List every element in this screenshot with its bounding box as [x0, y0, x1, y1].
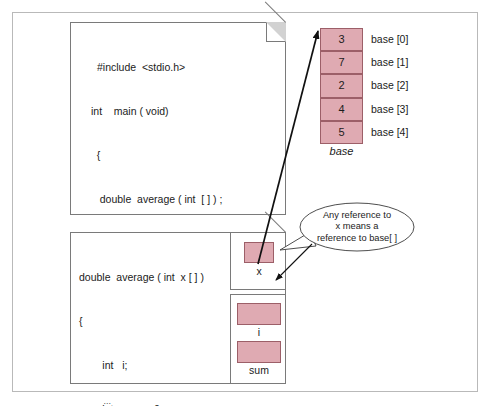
- callout-line-3: reference to base[ ]: [317, 233, 397, 245]
- memory-box-label-i: i: [231, 326, 287, 338]
- code-line: {: [71, 148, 285, 163]
- array-cell: 5: [320, 121, 363, 144]
- code-line: #include <stdio.h>: [71, 60, 285, 75]
- memory-box-i: [237, 303, 281, 325]
- locals-panel: i sum: [230, 294, 286, 384]
- callout-text: Any reference to x means a reference to …: [300, 203, 414, 251]
- figure-canvas: #include <stdio.h> int main ( void) { do…: [0, 0, 492, 406]
- memory-box-x: [244, 242, 274, 263]
- code-line: int sum = 0 ;: [71, 402, 285, 406]
- code-line: int main ( void): [71, 104, 285, 119]
- callout-bubble: Any reference to x means a reference to …: [300, 203, 414, 251]
- memory-box-sum: [237, 341, 281, 363]
- array-base: 3 7 2 4 5 base [0] base [1] base [2] bas…: [320, 28, 363, 144]
- callout-line-2: x means a: [336, 221, 379, 233]
- callout-line-1: Any reference to: [323, 210, 391, 222]
- memory-box-label-sum: sum: [231, 364, 287, 376]
- array-index-label: base [1]: [371, 51, 441, 74]
- parameter-panel: x: [230, 232, 286, 290]
- array-cell: 7: [320, 51, 363, 74]
- array-index-label: base [2]: [371, 74, 441, 97]
- array-name-label: base: [320, 145, 363, 157]
- memory-box-label-x: x: [231, 265, 287, 277]
- array-cell: 4: [320, 98, 363, 121]
- array-index-label: base [4]: [371, 121, 441, 144]
- array-cell: 2: [320, 74, 363, 97]
- array-index-label: base [3]: [371, 98, 441, 121]
- code-line: double average ( int [ ] ) ;: [71, 192, 285, 207]
- array-cell: 3: [320, 28, 363, 51]
- main-function-card: #include <stdio.h> int main ( void) { do…: [70, 22, 286, 215]
- array-index-label: base [0]: [371, 28, 441, 51]
